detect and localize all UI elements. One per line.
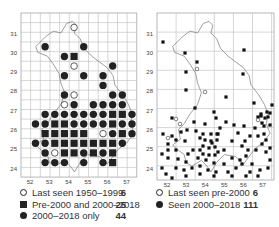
record-dot-marker	[179, 130, 182, 133]
filled-circle-marker	[119, 101, 126, 108]
left-grid-map: 3130292827262524525354555657	[0, 0, 140, 190]
legend-row-2000-2018-only: 2000–2018 only 44	[20, 210, 140, 222]
record-dot-marker	[170, 116, 173, 119]
filled-circle-marker	[128, 120, 135, 127]
record-dot-marker	[191, 148, 194, 151]
record-dot-marker	[263, 116, 266, 119]
record-dot-marker	[198, 148, 201, 151]
record-dot-marker	[203, 122, 206, 125]
record-dot-marker	[254, 148, 257, 151]
record-dot-marker	[260, 121, 263, 124]
record-dot-marker	[198, 136, 201, 139]
y-tick-label: 26	[146, 127, 153, 133]
record-dot-marker	[204, 158, 207, 161]
filled-circle-marker	[99, 120, 106, 127]
record-dot-marker	[270, 103, 273, 106]
legend-label: 2000–2018 only	[32, 210, 110, 222]
record-dot-marker	[182, 168, 185, 171]
record-dot-marker	[218, 126, 221, 129]
filled-circle-marker	[70, 101, 77, 108]
legend-row-pre-2000-and-2000-2018: Pre-2000 and 2000–2018 25	[20, 199, 140, 211]
legend-row-last-seen-pre-2000: Last seen pre-2000 6	[156, 187, 276, 199]
x-tick-label: 54	[65, 179, 72, 185]
record-dot-marker	[198, 164, 201, 167]
record-dot-marker	[242, 124, 245, 127]
x-tick-label: 52	[27, 179, 34, 185]
record-dot-marker	[248, 170, 251, 173]
filled-square-marker	[42, 130, 49, 137]
filled-square-marker	[61, 140, 68, 147]
y-tick-label: 28	[10, 88, 17, 94]
filled-circle-marker	[41, 159, 48, 166]
filled-circle-marker	[128, 111, 135, 118]
filled-square-marker	[61, 130, 68, 137]
y-tick-label: 29	[146, 69, 153, 75]
filled-circle-marker	[90, 101, 97, 108]
filled-circle-marker	[61, 91, 68, 98]
filled-square-marker	[70, 130, 77, 137]
record-dot-marker	[206, 168, 209, 171]
record-dot-marker	[176, 157, 179, 160]
filled-square-marker	[51, 140, 58, 147]
y-tick-label: 31	[10, 31, 17, 37]
filled-circle-marker	[32, 140, 39, 147]
record-dot-marker	[256, 134, 259, 137]
open-circle-icon	[156, 189, 163, 196]
record-dot-marker	[166, 142, 169, 145]
y-tick-label: 25	[146, 146, 153, 152]
record-dot-marker	[266, 115, 269, 118]
x-tick-label: 53	[46, 179, 53, 185]
record-dot-marker	[253, 126, 256, 129]
record-dot-marker	[183, 139, 186, 142]
record-dot-marker	[252, 101, 255, 104]
record-dot-marker	[238, 158, 241, 161]
filled-square-marker	[61, 149, 68, 156]
record-dot-marker	[260, 142, 263, 145]
record-dot-marker	[160, 166, 163, 169]
left-map-panel: 3130292827262524525354555657 Last seen 1…	[0, 0, 140, 190]
legend-label: Last seen pre-2000	[168, 187, 242, 199]
record-dot-marker	[198, 172, 201, 175]
record-dot-marker	[214, 116, 217, 119]
record-dot-marker	[256, 174, 259, 177]
record-dot-marker	[174, 166, 177, 169]
record-dot-marker	[258, 168, 261, 171]
record-dot-marker	[166, 156, 169, 159]
record-dot-marker	[224, 120, 227, 123]
filled-circle-marker	[41, 111, 48, 118]
filled-circle-marker	[80, 111, 87, 118]
x-tick-label: 57	[123, 179, 130, 185]
x-tick-label: 55	[85, 179, 92, 185]
record-dot-marker	[222, 148, 225, 151]
record-dot-marker	[212, 110, 215, 113]
filled-circle-marker	[51, 159, 58, 166]
record-dot-marker	[230, 156, 233, 159]
record-dot-marker	[264, 138, 267, 141]
filled-circle-marker	[109, 62, 116, 69]
filled-square-marker	[51, 120, 58, 127]
record-dot-marker	[244, 154, 247, 157]
legend-row-last-seen-1950-1999: Last seen 1950–1999 6	[20, 187, 140, 199]
y-tick-label: 31	[146, 31, 153, 37]
filled-square-marker	[61, 120, 68, 127]
record-dot-marker	[207, 146, 210, 149]
filled-circle-marker	[90, 111, 97, 118]
right-map-panel: 3130292827262524525354555657 Last seen p…	[140, 0, 279, 190]
record-dot-marker	[262, 124, 265, 127]
record-dot-marker	[192, 120, 195, 123]
filled-circle-marker	[99, 101, 106, 108]
filled-square-icon	[20, 201, 27, 208]
filled-square-marker	[90, 140, 97, 147]
filled-circle-marker	[80, 149, 87, 156]
record-dot-marker	[161, 132, 164, 135]
filled-square-marker	[51, 130, 58, 137]
record-dot-marker	[213, 145, 216, 148]
filled-circle-marker	[99, 159, 106, 166]
record-dot-marker	[232, 123, 235, 126]
legend-label: Seen 2000–2018	[168, 199, 242, 211]
legend-label: Pre-2000 and 2000–2018	[32, 199, 114, 211]
record-dot-marker	[203, 138, 206, 141]
record-dot-marker	[190, 166, 193, 169]
record-dot-marker	[268, 158, 271, 161]
record-dot-marker	[207, 153, 210, 156]
